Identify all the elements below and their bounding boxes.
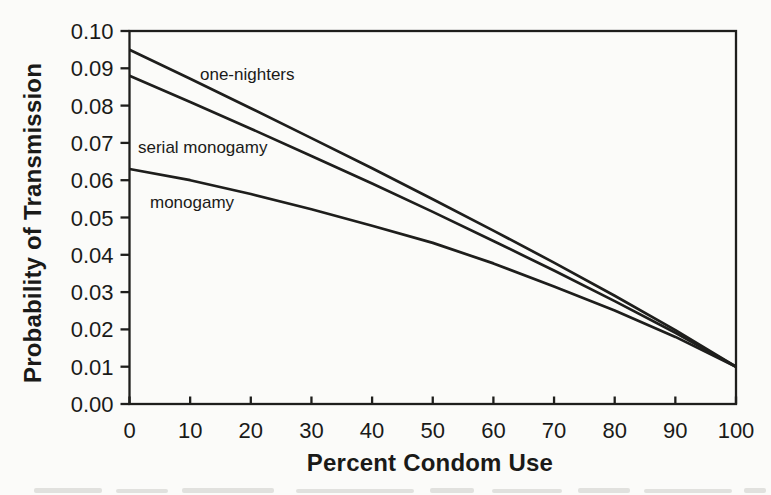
x-tick-label: 60 <box>481 418 505 443</box>
x-axis-title: Percent Condom Use <box>307 451 553 475</box>
y-tick-label: 0.05 <box>71 206 114 231</box>
y-tick-label: 0.10 <box>71 19 114 44</box>
series-label-one-nighters: one-nighters <box>200 65 295 84</box>
x-tick-label: 10 <box>178 418 202 443</box>
series-label-serial-monogamy: serial monogamy <box>138 138 268 157</box>
x-tick-label: 40 <box>360 418 384 443</box>
y-tick-label: 0.06 <box>71 168 114 193</box>
y-tick-label: 0.08 <box>71 94 114 119</box>
y-tick-label: 0.03 <box>71 280 114 305</box>
y-tick-label: 0.00 <box>71 392 114 417</box>
x-tick-label: 90 <box>663 418 687 443</box>
plot-frame <box>130 31 737 404</box>
y-tick-label: 0.02 <box>71 317 114 342</box>
y-tick-label: 0.04 <box>71 243 114 268</box>
x-tick-label: 30 <box>299 418 323 443</box>
y-tick-label: 0.07 <box>71 131 114 156</box>
x-tick-label: 100 <box>718 418 755 443</box>
x-tick-label: 80 <box>602 418 626 443</box>
chart-svg: 0.000.010.020.030.040.050.060.070.080.09… <box>0 0 771 495</box>
x-tick-label: 0 <box>123 418 135 443</box>
y-axis-title: Probability of Transmission <box>21 53 45 393</box>
x-tick-label: 70 <box>542 418 566 443</box>
x-tick-label: 50 <box>421 418 445 443</box>
figure-canvas: 0.000.010.020.030.040.050.060.070.080.09… <box>0 0 771 495</box>
y-tick-label: 0.01 <box>71 355 114 380</box>
cropped-caption-remnant <box>34 488 766 493</box>
series-label-monogamy: monogamy <box>150 193 235 212</box>
y-tick-label: 0.09 <box>71 56 114 81</box>
x-tick-label: 20 <box>239 418 263 443</box>
